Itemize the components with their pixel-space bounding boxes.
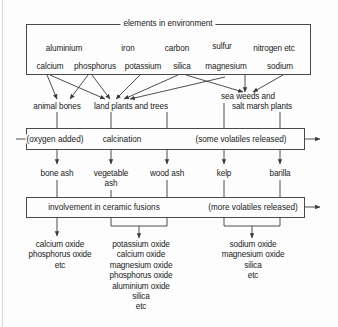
product-line: sodium oxide (222, 240, 285, 250)
product-line: silica (109, 292, 172, 302)
ash-vegetable-ash-line2: ash (94, 179, 129, 189)
element-sodium: sodium (267, 62, 293, 72)
product-line: silica (222, 261, 285, 271)
product-line: potassium oxide (109, 240, 172, 250)
element-sulfur: sulfur (212, 42, 231, 52)
product-line: etc (28, 261, 91, 271)
product-group-plant-ash: potassium oxide calcium oxide magnesium … (109, 240, 172, 313)
arrow-calcium-to-land-plants (50, 75, 105, 99)
ash-vegetable-ash-line1: vegetable (94, 169, 129, 179)
bracket-plant-ash-products (111, 218, 167, 226)
elements-box-title: elements in environment (120, 19, 215, 28)
ash-vegetable-ash: vegetable ash (94, 169, 129, 190)
fusion-process-label: involvement in ceramic fusions (47, 203, 161, 212)
arrow-phosphorus-to-land-plants (92, 75, 110, 99)
product-line: phosphorus oxide (109, 271, 172, 281)
element-phosphorus: phosphorus (74, 62, 116, 72)
product-group-marine-ash: sodium oxide magnesium oxide silica etc (222, 240, 285, 282)
source-salt-marsh-plants: salt marsh plants (232, 102, 292, 112)
calcination-volatiles-released-label: (some volatiles released) (194, 135, 287, 144)
page-left-margin-rule (2, 0, 3, 327)
product-line: calcium oxide (109, 250, 172, 260)
ash-bone-ash: bone ash (41, 169, 74, 179)
source-land-plants-and-trees: land plants and trees (94, 102, 168, 112)
arrow-sodium-to-sea-weeds (253, 75, 283, 92)
ash-kelp: kelp (217, 169, 232, 179)
source-animal-bones: animal bones (33, 102, 81, 112)
product-line: phosphorus oxide (28, 250, 91, 260)
source-sea-weeds: sea weeds and (221, 92, 275, 102)
bracket-marine-ash-products (224, 218, 280, 226)
ash-barilla: barilla (269, 169, 290, 179)
product-line: magnesium oxide (109, 261, 172, 271)
arrow-magnesium-to-land-plants (130, 77, 225, 99)
arrow-potassium-to-land-plants (116, 75, 140, 99)
product-line: magnesium oxide (222, 250, 285, 260)
product-line: aluminium oxide (109, 282, 172, 292)
product-line: calcium oxide (28, 240, 91, 250)
arrow-calcium-to-animal-bones (47, 75, 57, 99)
arrow-silica-to-land-plants (124, 75, 178, 99)
product-group-bone-ash: calcium oxide phosphorus oxide etc (28, 240, 91, 271)
element-magnesium: magnesium (205, 62, 246, 72)
arrow-silica-to-sea-weeds (186, 75, 243, 92)
fusion-more-volatiles-released-label: (more volatiles released) (207, 203, 299, 212)
diagram-canvas: elements in environment aluminium iron c… (0, 0, 338, 327)
element-aluminium: aluminium (46, 44, 82, 54)
element-calcium: calcium (36, 62, 63, 72)
element-silica: silica (173, 62, 191, 72)
element-carbon: carbon (165, 44, 189, 54)
calcination-process-label: calcination (102, 135, 143, 144)
element-iron: iron (121, 44, 134, 54)
element-potassium: potassium (125, 62, 161, 72)
arrow-phosphorus-to-animal-bones (70, 75, 88, 99)
calcination-oxygen-added-label: (oxygen added) (26, 135, 85, 144)
product-line: etc (109, 302, 172, 312)
ash-wood-ash: wood ash (150, 169, 184, 179)
element-nitrogen-etc: nitrogen etc (253, 44, 295, 54)
product-line: etc (222, 271, 285, 281)
